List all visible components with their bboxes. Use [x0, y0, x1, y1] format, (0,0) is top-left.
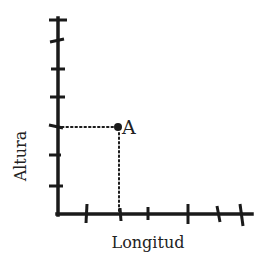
point-a-marker [114, 123, 122, 131]
x-tick [217, 206, 220, 222]
x-tick [120, 208, 121, 221]
x-axis-label: Longitud [112, 233, 185, 252]
x-tick [240, 204, 243, 226]
y-tick [50, 39, 64, 42]
y-axis-label: Altura [11, 130, 30, 182]
coordinate-diagram: A Longitud Altura [0, 0, 262, 265]
point-a-label: A [121, 116, 136, 138]
x-tick [86, 204, 87, 223]
y-tick [49, 125, 63, 128]
